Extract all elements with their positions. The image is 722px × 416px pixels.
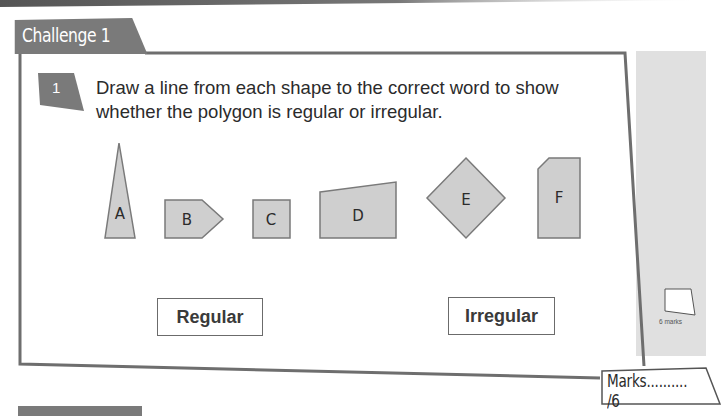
shape-a-label: A	[115, 205, 125, 223]
marks-available: 6 marks	[659, 318, 682, 325]
shape-e-label: E	[461, 191, 470, 209]
marks-quad-icon	[664, 287, 696, 317]
shape-f-label: F	[555, 189, 564, 207]
marks-score[interactable]: Marks.......... /6	[607, 371, 699, 411]
shape-b[interactable]	[165, 200, 223, 238]
shape-c-label: C	[266, 211, 276, 229]
shape-d-label: D	[352, 207, 364, 225]
next-challenge-tab	[18, 406, 142, 416]
regular-box[interactable]: Regular	[157, 298, 263, 336]
irregular-box[interactable]: Irregular	[448, 297, 555, 335]
shape-a[interactable]	[105, 143, 135, 238]
shape-b-label: B	[182, 211, 192, 229]
